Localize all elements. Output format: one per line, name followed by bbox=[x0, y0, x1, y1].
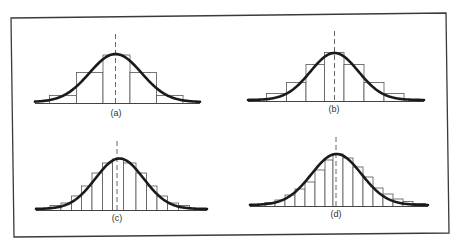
histogram-bar bbox=[130, 73, 157, 104]
histogram-bar bbox=[315, 170, 325, 207]
histogram-bar bbox=[92, 173, 103, 211]
histogram-bar bbox=[103, 55, 130, 104]
histogram-bar bbox=[305, 182, 315, 207]
panel-a-caption: (a) bbox=[111, 108, 122, 118]
panel-c-histogram: (c) bbox=[36, 141, 207, 223]
panel-a-histogram: (a) bbox=[35, 34, 200, 118]
histogram-bar bbox=[325, 160, 333, 207]
histogram-bar bbox=[333, 154, 343, 207]
histogram-bar bbox=[124, 163, 137, 211]
histogram-bar bbox=[77, 73, 104, 104]
panel-b-caption: (b) bbox=[329, 104, 340, 114]
histogram-normal-curve-figure: (a) (b) (c) (d) bbox=[0, 0, 458, 245]
histogram-bar bbox=[344, 65, 364, 102]
histogram-bar bbox=[103, 163, 113, 211]
histogram-bar bbox=[343, 158, 353, 207]
panel-d-caption: (d) bbox=[331, 209, 342, 219]
histogram-bar bbox=[306, 65, 325, 102]
histogram-bar bbox=[113, 159, 124, 211]
panel-c-caption: (c) bbox=[112, 213, 123, 223]
panel-b-histogram: (b) bbox=[248, 31, 424, 114]
panel-d-histogram: (d) bbox=[250, 137, 428, 219]
